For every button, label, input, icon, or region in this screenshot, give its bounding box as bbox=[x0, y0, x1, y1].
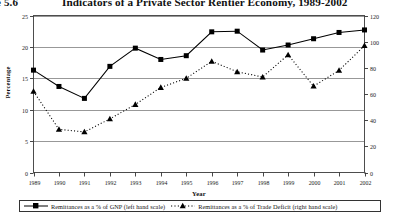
svg-text:0: 0 bbox=[25, 171, 28, 177]
figure-container: re 5.6 Indicators of a Private Sector Re… bbox=[0, 0, 398, 214]
svg-text:1996: 1996 bbox=[207, 180, 219, 186]
svg-text:1999: 1999 bbox=[283, 180, 295, 186]
y-axis-left-ticks: 0510152025 bbox=[22, 14, 34, 177]
legend-label-gnp: Remittances as a % of GNP (left hand sca… bbox=[48, 203, 165, 210]
plot-area: 0510152025 020406080100120 1989199019911… bbox=[0, 0, 398, 190]
svg-text:1995: 1995 bbox=[181, 180, 193, 186]
svg-text:1989: 1989 bbox=[29, 180, 41, 186]
svg-text:0: 0 bbox=[370, 171, 373, 177]
square-marker-icon bbox=[24, 202, 48, 210]
svg-text:1994: 1994 bbox=[156, 180, 168, 186]
svg-text:40: 40 bbox=[370, 118, 376, 124]
svg-text:5: 5 bbox=[25, 139, 28, 145]
svg-text:1997: 1997 bbox=[232, 180, 244, 186]
svg-text:20: 20 bbox=[370, 144, 376, 150]
chart-legend: Remittances as a % of GNP (left hand sca… bbox=[19, 200, 381, 212]
svg-text:25: 25 bbox=[22, 14, 28, 20]
legend-label-trade-deficit: Remittances as a % of Trade Deficit (rig… bbox=[195, 203, 337, 210]
x-axis-ticks: 1989199019911992199319941995199619971998… bbox=[29, 173, 372, 186]
chart-svg: 0510152025 020406080100120 1989199019911… bbox=[0, 0, 398, 190]
y-axis-right-ticks: 020406080100120 bbox=[365, 14, 380, 177]
triangle-marker-icon bbox=[171, 202, 195, 210]
svg-text:100: 100 bbox=[370, 40, 379, 46]
legend-item-trade-deficit: Remittances as a % of Trade Deficit (rig… bbox=[165, 201, 337, 211]
svg-text:15: 15 bbox=[22, 76, 28, 82]
series-remittances-trade-deficit bbox=[30, 42, 367, 134]
gridlines-group bbox=[34, 17, 365, 142]
svg-text:1990: 1990 bbox=[54, 180, 66, 186]
svg-text:60: 60 bbox=[370, 92, 376, 98]
svg-text:1998: 1998 bbox=[258, 180, 270, 186]
svg-text:1992: 1992 bbox=[105, 180, 117, 186]
svg-text:80: 80 bbox=[370, 66, 376, 72]
svg-text:1991: 1991 bbox=[79, 180, 91, 186]
svg-text:2002: 2002 bbox=[360, 180, 372, 186]
svg-text:2001: 2001 bbox=[334, 180, 346, 186]
svg-text:120: 120 bbox=[370, 14, 379, 20]
svg-text:2000: 2000 bbox=[309, 180, 321, 186]
svg-text:10: 10 bbox=[22, 108, 28, 114]
svg-text:1993: 1993 bbox=[130, 180, 142, 186]
legend-item-gnp: Remittances as a % of GNP (left hand sca… bbox=[20, 201, 165, 211]
x-axis-label: Year bbox=[0, 190, 398, 197]
series-remittances-gnp bbox=[31, 27, 367, 100]
svg-text:20: 20 bbox=[22, 45, 28, 51]
